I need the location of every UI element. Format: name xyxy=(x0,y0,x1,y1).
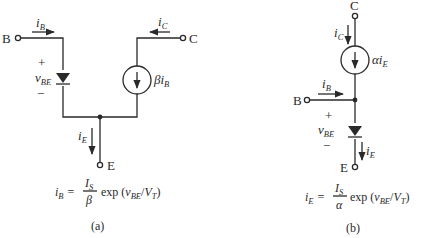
svg-text:IS: IS xyxy=(84,176,94,192)
collector-terminal-b xyxy=(352,13,357,18)
circuit-a: B C E iB iC iE + vBE − βiB iB= xyxy=(2,14,198,233)
label-ib-b: iB xyxy=(322,76,331,93)
plus-a: + xyxy=(38,55,45,70)
svg-text:exp (vBE/VT): exp (vBE/VT) xyxy=(350,190,409,206)
caption-a: (a) xyxy=(91,219,104,233)
emitter-terminal-b xyxy=(352,164,357,169)
emitter-terminal-a xyxy=(97,162,102,167)
minus-a: − xyxy=(37,86,44,101)
label-source-a: βiB xyxy=(153,72,169,89)
plus-b: + xyxy=(325,108,332,123)
minus-b: − xyxy=(323,138,330,153)
base-terminal-a xyxy=(15,35,20,40)
label-ic-b: iC xyxy=(334,25,344,42)
label-E-a: E xyxy=(107,158,115,173)
base-terminal-b xyxy=(304,97,309,102)
label-vbe-b: vBE xyxy=(318,122,335,139)
label-vbe-a: vBE xyxy=(35,70,52,87)
collector-terminal-a xyxy=(180,35,185,40)
diode-icon xyxy=(56,73,70,84)
svg-text:iE=: iE= xyxy=(305,190,325,206)
caption-b: (b) xyxy=(346,221,360,235)
label-C-b: C xyxy=(350,0,359,13)
equation-a: iB= IS β exp (vBE/VT) xyxy=(55,176,160,207)
junction-dot-b xyxy=(353,98,358,103)
svg-text:β: β xyxy=(85,193,92,207)
junction-dot-a xyxy=(98,115,103,120)
circuit-diagram: B C E iB iC iE + vBE − βiB iB= xyxy=(0,0,421,238)
label-E-b: E xyxy=(340,160,348,175)
label-ie-b: iE xyxy=(366,143,376,160)
equation-b: iE= IS α exp (vBE/VT) xyxy=(305,181,409,212)
label-C-a: C xyxy=(189,31,198,46)
label-ie-a: iE xyxy=(78,128,88,145)
current-source-icon xyxy=(123,66,151,94)
label-source-b: αiE xyxy=(372,52,388,69)
svg-text:IS: IS xyxy=(334,181,344,197)
label-B-b: B xyxy=(293,93,302,108)
diode-icon xyxy=(348,126,362,137)
svg-text:α: α xyxy=(336,198,343,212)
bottom-wire-a xyxy=(63,86,137,117)
collector-wire-a xyxy=(137,38,180,66)
current-source-icon xyxy=(341,46,369,74)
circuit-b: C B E iC iB iE + vBE − αiE iE= xyxy=(293,0,409,235)
label-ib-a: iB xyxy=(36,15,45,32)
label-ic-a: iC xyxy=(158,14,168,31)
svg-text:exp (vBE/VT): exp (vBE/VT) xyxy=(101,185,160,201)
svg-text:iB=: iB= xyxy=(55,185,75,201)
label-B-a: B xyxy=(2,31,11,46)
